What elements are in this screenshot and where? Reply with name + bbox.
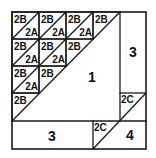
quilt-block-diagram: 2B2A2B2A2B2A2B2B2A2B2A2B2B2A2B2B 1 3 3 2… (0, 0, 156, 158)
corner-piece-label: 4 (126, 127, 134, 143)
triangle-label-2a: 2A (79, 27, 92, 38)
triangle-label-2b: 2B (14, 95, 27, 106)
corner-triangle-top-label: 2C (121, 94, 134, 105)
triangle-label-2b: 2B (95, 14, 108, 25)
center-piece-label: 1 (88, 69, 96, 85)
triangle-label-2b: 2B (68, 41, 81, 52)
triangle-label-2a: 2A (25, 27, 38, 38)
bottom-strip-label: 3 (48, 128, 56, 144)
triangle-label-2b: 2B (14, 68, 27, 79)
triangle-label-2b: 2B (41, 41, 54, 52)
triangle-label-2b: 2B (41, 14, 54, 25)
triangle-label-2b: 2B (14, 41, 27, 52)
triangle-label-2a: 2A (25, 54, 38, 65)
triangle-label-2b: 2B (41, 68, 54, 79)
triangle-label-2a: 2A (52, 27, 65, 38)
right-strip-label: 3 (129, 44, 137, 60)
triangle-label-2a: 2A (25, 81, 38, 92)
triangle-label-2a: 2A (52, 54, 65, 65)
triangle-label-2b: 2B (14, 14, 27, 25)
triangle-label-2b: 2B (68, 14, 81, 25)
corner-triangle-bottom-label: 2C (94, 122, 107, 133)
